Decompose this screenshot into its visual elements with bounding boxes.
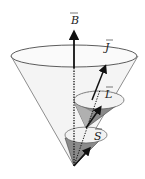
label-j: J <box>103 41 110 54</box>
label-s: S <box>94 130 102 143</box>
label-b: B <box>70 14 79 27</box>
precession-diagram: B J L S <box>0 0 145 179</box>
label-l: L <box>104 88 112 101</box>
